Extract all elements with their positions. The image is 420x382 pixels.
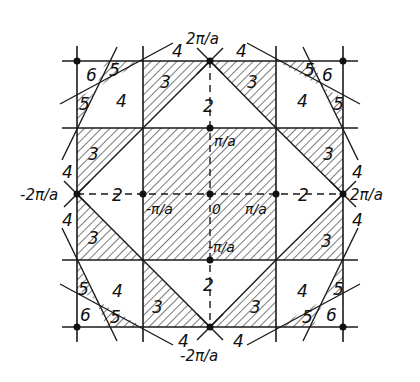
zone-2-right: 2 <box>298 185 309 205</box>
zone-3-bl: 3 <box>152 297 163 317</box>
zone-3-tr: 3 <box>247 72 258 92</box>
zone-3-lt: 3 <box>88 144 99 164</box>
zone-5-tl-b: 5 <box>79 94 90 114</box>
zone-6-tl: 6 <box>86 65 97 85</box>
zone-6-bl: 6 <box>80 305 91 325</box>
zone-4-outer-tr: 4 <box>236 41 247 61</box>
label-inner-right: π/a <box>245 201 267 217</box>
zone-3-rb: 3 <box>321 231 332 251</box>
label-left: -2π/a <box>20 186 58 204</box>
zone-5-tl-a: 5 <box>109 60 120 80</box>
zone-4-outer-tl: 4 <box>172 41 183 61</box>
zone-5-bl-b: 5 <box>110 307 121 327</box>
zone-4-outer-br: 4 <box>233 331 244 351</box>
label-top: 2π/a <box>186 30 219 48</box>
zone-5-br-a: 5 <box>333 279 344 299</box>
zone-4-outer-bl: 4 <box>178 331 189 351</box>
zone-4-outer-lb: 4 <box>62 210 73 230</box>
zone-5-br-b: 5 <box>302 307 313 327</box>
zone-2-top: 2 <box>203 96 214 116</box>
zone-5-tr-a: 5 <box>304 60 315 80</box>
zone-3-br: 3 <box>250 297 261 317</box>
zone-4-outer-rb: 4 <box>352 210 363 230</box>
zone-4-corner-br: 4 <box>297 281 308 301</box>
label-inner-left: -π/a <box>146 201 173 217</box>
zone-4-outer-rt: 4 <box>352 162 363 182</box>
zone-3-rt: 3 <box>323 144 334 164</box>
label-inner-top: π/a <box>214 133 236 149</box>
brillouin-zone-diagram: 2π/a -2π/a -2π/a 2π/a π/a -π/a -π/a π/a … <box>0 0 420 382</box>
zone-4-corner-bl: 4 <box>112 281 123 301</box>
label-right: 2π/a <box>350 186 383 204</box>
zone-2-left: 2 <box>112 185 123 205</box>
label-origin: 0 <box>212 201 221 217</box>
zone-4-corner-tl: 4 <box>116 91 127 111</box>
zone-6-tr: 6 <box>322 65 333 85</box>
zone-2-bottom: 2 <box>203 275 214 295</box>
zone-6-br: 6 <box>326 305 337 325</box>
zone-5-tr-b: 5 <box>333 94 344 114</box>
zone-4-corner-tr: 4 <box>297 91 308 111</box>
label-inner-bottom: -π/a <box>208 239 235 255</box>
zone-3-tl: 3 <box>160 72 171 92</box>
zone-3-lb: 3 <box>88 228 99 248</box>
zone-4-outer-lt: 4 <box>62 162 73 182</box>
zone-5-bl-a: 5 <box>78 279 89 299</box>
